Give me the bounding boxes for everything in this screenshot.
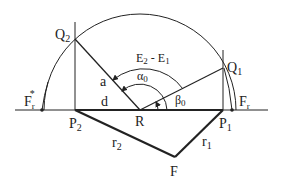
label-a: a [100,74,107,89]
label-q2: Q2 [55,27,70,44]
geometry-diagram: Q2 Q1 E2 - E1 α0 β0 a d R P2 P1 Fr* Fr r… [0,0,284,186]
label-fr: Fr [239,94,250,111]
label-p1: P1 [219,116,232,133]
label-r1: r1 [202,134,212,151]
label-d: d [101,94,108,109]
fr-point [230,108,234,112]
label-fr-star: Fr* [24,88,35,111]
label-r2: r2 [112,135,122,152]
label-q1: Q1 [227,60,242,77]
label-beta0: β0 [175,93,186,108]
label-p2: P2 [69,116,82,133]
label-r: R [135,114,145,129]
segment-r1 [175,110,223,157]
fr-star-point [40,108,44,112]
label-e2-e1: E2 - E1 [136,51,170,66]
segment-r2 [75,110,175,157]
label-alpha0: α0 [137,69,148,84]
angle-arc-e2-e1 [113,69,183,89]
label-f: F [170,164,178,179]
angle-arc-beta0 [156,102,158,110]
